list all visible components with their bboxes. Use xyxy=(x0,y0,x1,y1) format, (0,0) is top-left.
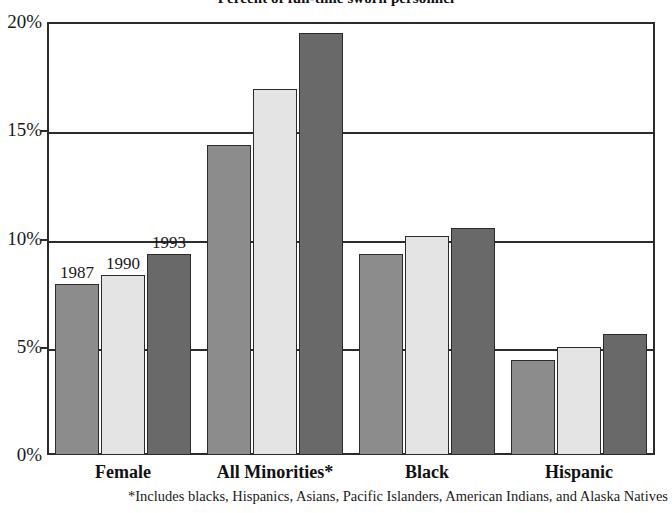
series-label-1987: 1987 xyxy=(60,263,94,283)
x-axis-category-label: Black xyxy=(405,462,449,483)
bar-female-1993 xyxy=(147,254,191,455)
y-axis-tick-label: 5% xyxy=(0,336,42,358)
x-axis-category-label: Hispanic xyxy=(545,462,613,483)
chart-title: Percent of full-time sworn personnel xyxy=(0,0,672,7)
bar-female-1990 xyxy=(101,275,145,455)
bar-hispanic-1987 xyxy=(511,360,555,455)
chart-footnote: *Includes blacks, Hispanics, Asians, Pac… xyxy=(0,488,668,505)
x-axis-category-label: All Minorities* xyxy=(217,462,333,483)
y-axis-tick-label: 10% xyxy=(0,228,42,250)
bar-black-1987 xyxy=(359,254,403,455)
bar-hispanic-1990 xyxy=(557,347,601,455)
bar-all-minorities-1993 xyxy=(299,33,343,455)
series-label-1990: 1990 xyxy=(106,254,140,274)
bar-all-minorities-1987 xyxy=(207,145,251,455)
y-axis-tick-label: 15% xyxy=(0,119,42,141)
bar-all-minorities-1990 xyxy=(253,89,297,455)
bar-hispanic-1993 xyxy=(603,334,647,455)
series-label-1993: 1993 xyxy=(152,233,186,253)
bar-female-1987 xyxy=(55,284,99,455)
bars-layer xyxy=(47,22,655,455)
y-axis-tick-mark xyxy=(40,239,47,241)
bar-black-1990 xyxy=(405,236,449,455)
y-axis-tick-label: 20% xyxy=(0,11,42,33)
bar-black-1993 xyxy=(451,228,495,455)
x-axis-category-label: Female xyxy=(95,462,151,483)
y-axis-tick-mark xyxy=(40,347,47,349)
bar-chart-figure: Percent of full-time sworn personnel 20%… xyxy=(0,0,672,513)
y-axis-tick-mark xyxy=(40,130,47,132)
y-axis-tick-label: 0% xyxy=(0,444,42,466)
